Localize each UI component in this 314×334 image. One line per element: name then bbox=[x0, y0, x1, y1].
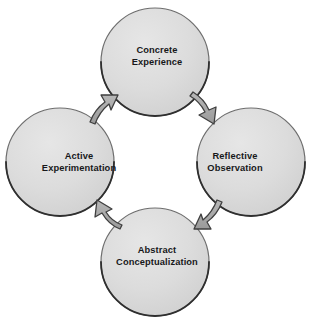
arrow-concrete-to-reflective bbox=[190, 92, 216, 124]
arrow-head-active-to-concrete bbox=[90, 95, 118, 124]
node-concrete-experience[interactable] bbox=[101, 8, 209, 116]
arrow-active-to-concrete bbox=[90, 95, 118, 124]
arrow-head-concrete-to-reflective bbox=[190, 92, 216, 124]
arrow-head-reflective-to-abstract bbox=[194, 200, 222, 229]
arrow-head-abstract-to-active bbox=[95, 200, 122, 229]
arrow-abstract-to-active bbox=[95, 200, 122, 229]
arrow-reflective-to-abstract bbox=[194, 200, 222, 229]
experiential-learning-cycle-diagram bbox=[0, 0, 314, 334]
